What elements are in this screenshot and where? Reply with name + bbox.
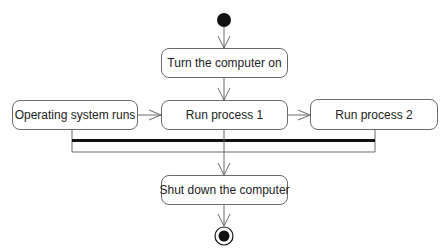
initial-node [217, 13, 231, 27]
action-shut-down: Shut down the computer [161, 175, 288, 205]
action-turn-on: Turn the computer on [161, 48, 288, 78]
action-process-1: Run process 1 [161, 100, 288, 130]
action-process-2: Run process 2 [310, 99, 438, 130]
action-os-runs: Operating system runs [12, 100, 138, 130]
final-node [219, 231, 230, 242]
